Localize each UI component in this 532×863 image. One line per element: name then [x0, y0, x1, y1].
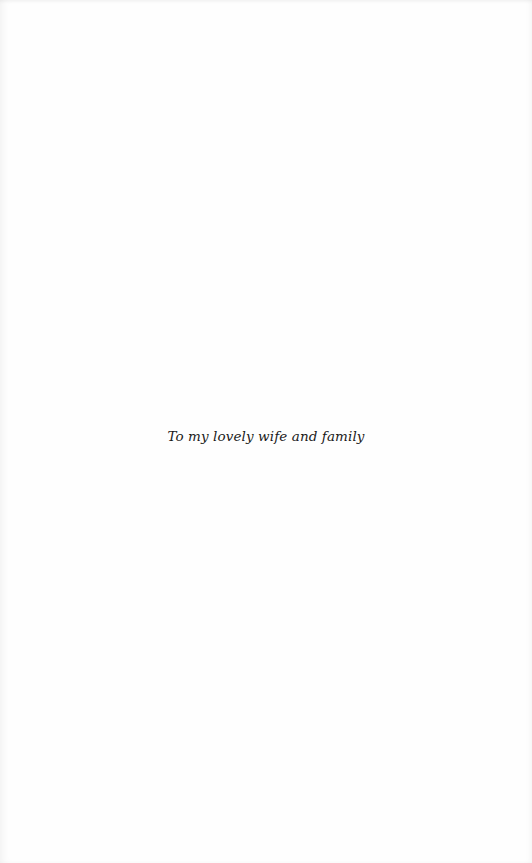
book-page: To my lovely wife and family [0, 0, 532, 863]
dedication-text: To my lovely wife and family [0, 428, 532, 444]
